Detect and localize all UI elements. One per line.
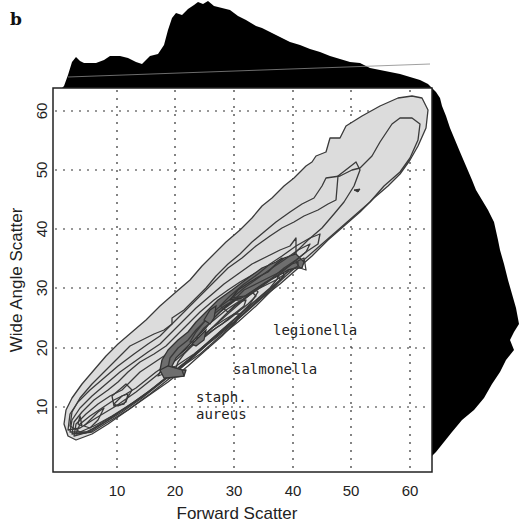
- x-tick-10: 10: [109, 482, 126, 499]
- x-tick-30: 30: [226, 482, 243, 499]
- y-axis-ticks: 10 20 30 40 50 60: [33, 103, 50, 416]
- annotation-aureus: aureus: [196, 406, 247, 422]
- y-tick-20: 20: [33, 340, 50, 357]
- x-axis-title: Forward Scatter: [177, 504, 298, 523]
- annotation-legionella: legionella: [273, 322, 357, 338]
- y-tick-30: 30: [33, 280, 50, 297]
- y-axis-title: Wide Angle Scatter: [7, 207, 26, 352]
- panel-label: b: [10, 9, 22, 29]
- x-tick-20: 20: [167, 482, 184, 499]
- x-tick-60: 60: [402, 482, 419, 499]
- annotation-salmonella: salmonella: [233, 361, 317, 377]
- y-tick-10: 10: [33, 399, 50, 416]
- x-axis-ticks: 10 20 30 40 50 60: [109, 482, 419, 499]
- y-tick-60: 60: [33, 103, 50, 120]
- y-tick-50: 50: [33, 162, 50, 179]
- x-tick-50: 50: [343, 482, 360, 499]
- right-histogram: [432, 88, 519, 456]
- contour-chart: b: [0, 0, 519, 525]
- x-tick-40: 40: [285, 482, 302, 499]
- y-tick-40: 40: [33, 221, 50, 238]
- annotation-staph: staph.: [196, 389, 247, 405]
